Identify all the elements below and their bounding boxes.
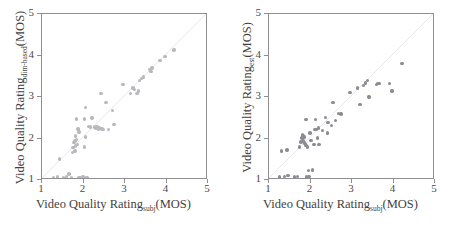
x-axis-title-sub-right: subj — [370, 204, 383, 213]
scatter-figure: 1234512345 Video Quality Ratingsubj(MOS)… — [0, 0, 454, 236]
identity-line-right — [269, 14, 433, 178]
y-tick — [37, 55, 41, 56]
data-point — [400, 62, 403, 65]
data-point — [83, 117, 86, 120]
data-point — [317, 126, 320, 129]
data-point — [303, 135, 306, 138]
data-point — [73, 149, 76, 152]
y-axis-title-main-left: Video Quality Rating — [13, 77, 27, 184]
data-point — [278, 175, 281, 178]
data-point — [309, 139, 312, 142]
data-point — [307, 175, 310, 178]
panel-left: 1234512345 Video Quality Ratingsubj(MOS)… — [0, 0, 227, 236]
x-tick-label: 3 — [112, 182, 136, 195]
data-point — [298, 145, 301, 148]
data-point — [83, 145, 86, 148]
x-tick-label: 5 — [422, 182, 446, 195]
plot-frame-right — [268, 13, 434, 179]
y-axis-title-right: Video Quality Ratingest(MOS) — [240, 8, 255, 188]
data-point — [163, 55, 166, 58]
y-tick — [264, 179, 268, 180]
data-point — [321, 129, 324, 132]
panel-right: 1234512345 Video Quality Ratingsubj(MOS)… — [227, 0, 454, 236]
y-tick — [37, 13, 41, 14]
data-point — [331, 101, 334, 104]
plot-area-left — [42, 14, 206, 178]
data-point — [280, 149, 283, 152]
data-point — [150, 66, 153, 69]
x-axis-title-main-left: Video Quality Rating — [36, 197, 143, 211]
y-tick — [264, 138, 268, 139]
y-axis-title-sub-left: dim-based — [19, 46, 28, 77]
y-axis-title-tail-right: (MOS) — [240, 22, 254, 57]
data-point — [75, 117, 78, 120]
data-point — [56, 175, 59, 178]
x-axis-title-tail-right: (MOS) — [382, 197, 417, 211]
y-tick — [37, 179, 41, 180]
x-axis-title-sub-left: subj — [143, 204, 156, 213]
data-point — [77, 130, 80, 133]
x-tick-label: 4 — [381, 182, 405, 195]
data-point — [104, 101, 107, 104]
data-point — [367, 95, 370, 98]
y-tick — [37, 138, 41, 139]
y-axis-title-sub-right: est — [246, 58, 255, 66]
y-axis-title-main-right: Video Quality Rating — [240, 66, 254, 173]
data-point — [149, 70, 152, 73]
x-tick-label: 3 — [339, 182, 363, 195]
data-point — [311, 168, 314, 171]
data-point — [85, 176, 88, 178]
data-point — [306, 145, 309, 148]
data-point — [390, 89, 393, 92]
data-point — [312, 143, 315, 146]
x-tick-label: 4 — [154, 182, 178, 195]
identity-line-left — [42, 14, 206, 178]
data-point — [308, 131, 311, 134]
y-tick — [264, 13, 268, 14]
data-point — [84, 135, 87, 138]
data-point — [90, 116, 93, 119]
x-tick-label: 5 — [195, 182, 219, 195]
y-axis-title-left: Video Quality Ratingdim-based(MOS) — [13, 8, 28, 188]
data-point — [172, 48, 175, 51]
data-point — [326, 121, 329, 124]
data-point — [70, 176, 73, 178]
x-axis-title-left: Video Quality Ratingsubj(MOS) — [0, 197, 227, 212]
data-point — [339, 112, 342, 115]
data-point — [76, 143, 79, 146]
data-point — [316, 136, 319, 139]
data-point — [286, 174, 289, 177]
data-point — [285, 148, 288, 151]
data-point — [89, 125, 92, 128]
data-point — [326, 131, 329, 134]
plot-frame-left — [41, 13, 207, 179]
y-tick — [264, 96, 268, 97]
x-axis-title-tail-left: (MOS) — [155, 197, 190, 211]
y-tick — [37, 96, 41, 97]
x-tick-label: 2 — [71, 182, 95, 195]
x-axis-title-right: Video Quality Ratingsubj(MOS) — [227, 197, 454, 212]
y-tick — [264, 55, 268, 56]
y-axis-title-tail-left: (MOS) — [13, 11, 27, 46]
data-point — [58, 157, 61, 160]
data-point — [317, 143, 320, 146]
data-point — [65, 175, 68, 178]
data-point — [99, 92, 102, 95]
data-point — [52, 176, 55, 178]
data-point — [358, 103, 361, 106]
data-point — [121, 83, 124, 86]
plot-area-right — [269, 14, 433, 178]
data-point — [356, 86, 359, 89]
x-tick-label: 2 — [298, 182, 322, 195]
x-axis-title-main-right: Video Quality Rating — [263, 197, 370, 211]
